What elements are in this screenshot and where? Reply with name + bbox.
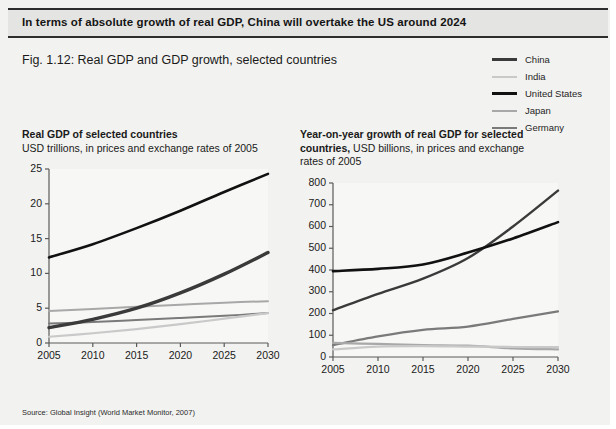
chart-legend: ChinaIndiaUnited StatesJapanGermany bbox=[492, 52, 610, 137]
source-label: Source: bbox=[22, 408, 48, 417]
x-tick-label: 2015 bbox=[403, 363, 443, 375]
source-note: Source: Global Insight (World Market Mon… bbox=[22, 408, 195, 417]
headline-text: In terms of absolute growth of real GDP,… bbox=[22, 16, 466, 28]
legend-label: United States bbox=[525, 88, 582, 99]
legend-label: China bbox=[525, 54, 550, 65]
figure-title: Fig. 1.12: Real GDP and GDP growth, sele… bbox=[22, 53, 337, 67]
legend-label: India bbox=[525, 71, 546, 82]
y-tick-label: 20 bbox=[22, 197, 42, 209]
legend-item-india: India bbox=[492, 69, 610, 84]
legend-swatch-icon bbox=[492, 110, 517, 112]
legend-label: Japan bbox=[525, 105, 551, 116]
plot-canvas bbox=[22, 163, 272, 347]
legend-swatch-icon bbox=[492, 76, 517, 78]
panel-real-gdp-subtitle: USD trillions, in prices and exchange ra… bbox=[22, 142, 258, 154]
y-tick-label: 100 bbox=[300, 328, 326, 340]
y-tick-label: 200 bbox=[300, 306, 326, 318]
y-tick-label: 0 bbox=[22, 336, 42, 348]
y-tick-label: 800 bbox=[300, 176, 326, 188]
legend-item-united-states: United States bbox=[492, 86, 610, 101]
y-tick-label: 25 bbox=[22, 162, 42, 174]
y-tick-label: 400 bbox=[300, 263, 326, 275]
x-tick-label: 2010 bbox=[358, 363, 398, 375]
y-tick-label: 10 bbox=[22, 266, 42, 278]
panel-real-gdp: Real GDP of selected countries USD trill… bbox=[22, 128, 284, 361]
x-tick-label: 2015 bbox=[117, 349, 157, 361]
legend-item-china: China bbox=[492, 52, 610, 67]
x-tick-label: 2005 bbox=[313, 363, 353, 375]
x-tick-label: 2030 bbox=[248, 349, 288, 361]
legend-swatch-icon bbox=[492, 92, 517, 95]
plot-gdp-growth: 0100200300400500600700800200520102015202… bbox=[300, 177, 562, 375]
plot-canvas bbox=[300, 177, 562, 361]
page-edge-bottom bbox=[0, 425, 616, 429]
y-tick-label: 700 bbox=[300, 197, 326, 209]
x-tick-label: 2020 bbox=[160, 349, 200, 361]
headline-banner: In terms of absolute growth of real GDP,… bbox=[8, 8, 608, 38]
figure-page: In terms of absolute growth of real GDP,… bbox=[0, 0, 616, 429]
y-tick-label: 15 bbox=[22, 232, 42, 244]
y-tick-label: 600 bbox=[300, 219, 326, 231]
plot-real-gdp: 0510152025200520102015202020252030 bbox=[22, 163, 272, 361]
panel-gdp-growth: Year-on-year growth of real GDP for sele… bbox=[300, 128, 576, 375]
x-tick-label: 2030 bbox=[538, 363, 578, 375]
legend-item-japan: Japan bbox=[492, 103, 610, 118]
x-tick-label: 2020 bbox=[448, 363, 488, 375]
panel-real-gdp-title: Real GDP of selected countries USD trill… bbox=[22, 128, 272, 155]
x-tick-label: 2025 bbox=[204, 349, 244, 361]
y-tick-label: 0 bbox=[300, 350, 326, 362]
y-tick-label: 500 bbox=[300, 241, 326, 253]
panel-gdp-growth-title: Year-on-year growth of real GDP for sele… bbox=[300, 128, 550, 169]
page-edge-right bbox=[610, 0, 616, 429]
x-tick-label: 2005 bbox=[29, 349, 69, 361]
x-tick-label: 2025 bbox=[493, 363, 533, 375]
y-tick-label: 5 bbox=[22, 301, 42, 313]
source-text: Global Insight (World Market Monitor, 20… bbox=[50, 408, 195, 417]
x-tick-label: 2010 bbox=[73, 349, 113, 361]
legend-swatch-icon bbox=[492, 58, 517, 61]
panel-real-gdp-heading: Real GDP of selected countries bbox=[22, 128, 178, 140]
y-tick-label: 300 bbox=[300, 284, 326, 296]
